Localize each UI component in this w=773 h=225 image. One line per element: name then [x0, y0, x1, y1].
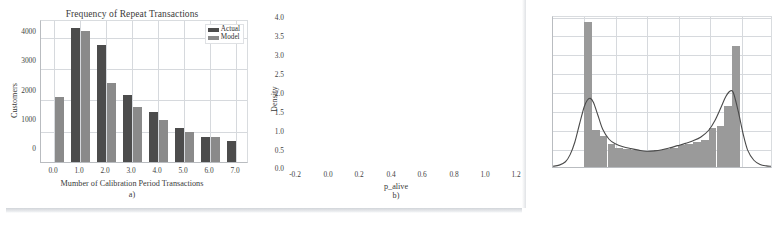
panel-a-plot-area: Actual Model	[40, 20, 248, 163]
kde-curve-path	[553, 91, 771, 167]
panel-b-xtick-0_8: 0.8	[440, 170, 468, 179]
panel-b-xtick-0_0: 0.0	[314, 170, 342, 179]
panel-a-legend: Actual Model	[205, 24, 244, 44]
bar-model-4	[159, 120, 168, 162]
panel-b-xtick-1_0: 1.0	[471, 170, 499, 179]
page-bottom-shadow	[6, 208, 522, 213]
page-edge-right	[522, 0, 526, 208]
bar-actual-7	[227, 141, 236, 162]
panel-a-xtick-7: 7.0	[224, 166, 246, 175]
bar-actual-2	[97, 45, 106, 162]
panel-b-xtick-0_4: 0.4	[377, 170, 405, 179]
panel-b-ytick-3_5: 3.5	[264, 32, 284, 41]
bar-actual-4	[149, 112, 158, 162]
panel-b-ytick-2_5: 2.5	[264, 70, 284, 79]
bar-actual-6	[201, 137, 210, 162]
panel-a-ytick-0: 0	[10, 144, 36, 153]
legend-entry-model: Model	[208, 34, 240, 42]
panel-a-xtick-1: 1.0	[68, 166, 90, 175]
bar-model-3	[133, 107, 142, 162]
panel-b-caption: b)	[264, 191, 528, 200]
panel-b-ytick-2_0: 2.0	[264, 89, 284, 98]
panel-b-ytick-4_0: 4.0	[264, 13, 284, 22]
panel-b-xtick--0_2: -0.2	[281, 170, 309, 179]
panel-a-xtick-2: 2.0	[94, 166, 116, 175]
panel-a-xtick-6: 6.0	[198, 166, 220, 175]
panel-b-xtick-0_2: 0.2	[345, 170, 373, 179]
panel-a-ytick-2000: 2000	[10, 86, 36, 95]
panel-a-caption: a)	[0, 190, 264, 199]
legend-swatch-model-icon	[208, 36, 219, 40]
bar-actual-1	[71, 28, 80, 162]
panel-a-xtick-3: 3.0	[120, 166, 142, 175]
bar-model-0	[55, 97, 64, 162]
bar-actual-5	[175, 128, 184, 162]
bar-model-5	[185, 132, 194, 162]
panel-b-kde-curve	[553, 17, 773, 169]
panel-b-histogram: Density 4.0 3.5 3.0 2.5 2.0 1.5 1.0 0.5 …	[264, 0, 528, 208]
bar-actual-3	[123, 95, 132, 162]
panel-a-bar-chart: Frequency of Repeat Transactions Custome…	[0, 0, 264, 208]
panel-a-title: Frequency of Repeat Transactions	[0, 9, 264, 19]
panel-b-xtick-0_6: 0.6	[408, 170, 436, 179]
panel-b-ytick-0_5: 0.5	[264, 146, 284, 155]
panel-b-plot-area	[552, 16, 772, 168]
legend-swatch-actual-icon	[208, 28, 219, 32]
panel-b-ytick-3_0: 3.0	[264, 51, 284, 60]
panel-a-ytick-3000: 3000	[10, 56, 36, 65]
panel-b-ytick-1_0: 1.0	[264, 127, 284, 136]
panel-a-ytick-4000: 4000	[10, 27, 36, 36]
panel-a-xtick-5: 5.0	[172, 166, 194, 175]
bar-model-1	[81, 31, 90, 162]
panel-a-ytick-1000: 1000	[10, 115, 36, 124]
panel-b-x-axis-label: p_alive	[264, 182, 528, 191]
panel-a-xtick-0: 0.0	[42, 166, 64, 175]
bar-model-6	[211, 137, 220, 162]
bar-model-2	[107, 83, 116, 162]
legend-label-model: Model	[221, 34, 240, 42]
panel-a-x-axis-label: Mumber of Calibration Period Transaction…	[0, 179, 264, 188]
panel-a-xtick-4: 4.0	[146, 166, 168, 175]
panel-b-ytick-1_5: 1.5	[264, 108, 284, 117]
